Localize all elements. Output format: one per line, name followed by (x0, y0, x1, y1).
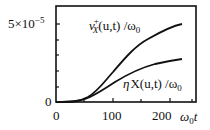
y-tick-label-5e-5: 5×10−5 (8, 15, 45, 31)
x-tick-label-0: 0 (53, 108, 60, 123)
y-tick-label-0: 0 (45, 94, 52, 109)
x-tick-label-100: 100 (102, 108, 122, 123)
x-axis-label: ω0t (180, 109, 198, 126)
curve-label-eta: ηX(u,t) /ω0 (123, 76, 182, 93)
x-tick-label-200: 200 (152, 108, 172, 123)
chart: 5×10−5 0 0 100 200 ω0t ν+X(u,t) /ω0 ηX(u… (0, 0, 210, 130)
curve-label-nu-plus: ν+X(u,t) /ω0 (89, 16, 141, 35)
